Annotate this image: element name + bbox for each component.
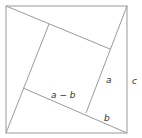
label-c: c xyxy=(132,76,137,86)
label-a-minus-b: a − b xyxy=(51,90,76,100)
label-b: b xyxy=(104,113,110,123)
triangle-edge-left xyxy=(6,24,49,133)
triangle-edge-top xyxy=(6,6,110,49)
pythagorean-diagram: a c a − b b xyxy=(0,0,142,138)
label-a: a xyxy=(106,75,112,85)
triangle-edge-right xyxy=(86,6,127,113)
